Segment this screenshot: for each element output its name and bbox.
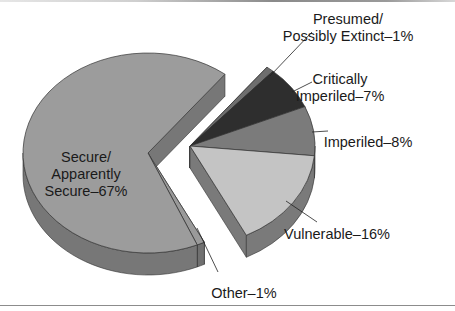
label-secure-apparently-secure-line-2: Apparently xyxy=(51,166,121,182)
leader-line-imperiled xyxy=(312,131,328,132)
pie-chart: Presumed/Possibly Extinct–1%CriticallyIm… xyxy=(0,0,455,311)
label-secure-apparently-secure-line-1: Secure/ xyxy=(61,149,112,165)
label-presumed-possibly-extinct-line-1: Presumed/ xyxy=(313,11,384,27)
label-critically-imperiled-line-2: Imperiled–7% xyxy=(296,88,385,104)
label-vulnerable: Vulnerable–16% xyxy=(284,226,390,242)
label-secure-apparently-secure-line-3: Secure–67% xyxy=(44,183,127,199)
label-other: Other–1% xyxy=(211,285,276,301)
label-imperiled: Imperiled–8% xyxy=(324,134,413,150)
label-presumed-possibly-extinct-line-2: Possibly Extinct–1% xyxy=(283,28,414,44)
slice-rim-other xyxy=(197,242,204,267)
label-critically-imperiled-line-1: Critically xyxy=(313,71,369,87)
